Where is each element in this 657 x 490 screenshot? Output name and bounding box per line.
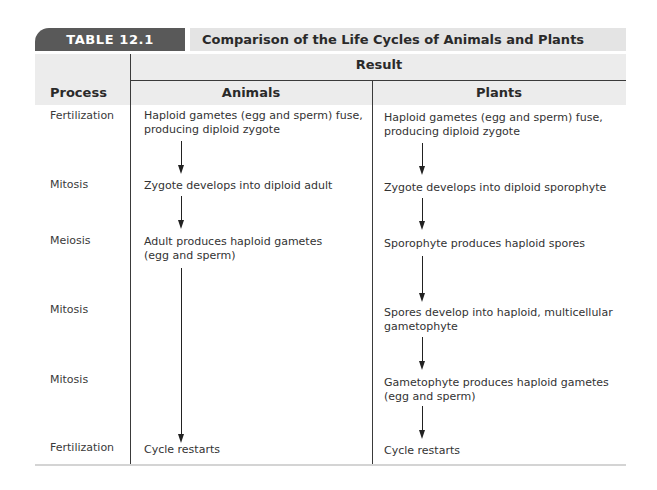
plants-cell: Zygote develops into diploid sporophyte [384,181,624,195]
animals-cell: Haploid gametes (egg and sperm) fuse, pr… [144,109,369,137]
table-title-bar: Comparison of the Life Cycles of Animals… [190,28,626,51]
plants-cell: Haploid gametes (egg and sperm) fuse, pr… [384,111,619,139]
down-arrow-icon [181,196,182,222]
down-arrow-icon [419,221,425,230]
down-arrow-icon [178,220,184,229]
table-number: TABLE 12.1 [66,32,154,47]
process-cell: Fertilization [50,109,114,122]
animals-cell: Adult produces haploid gametes (egg and … [144,235,324,263]
plants-cell: Cycle restarts [384,444,624,458]
down-arrow-icon [422,337,423,363]
result-group-header: Result [132,57,626,77]
column-divider-process [130,54,131,466]
down-arrow-icon [419,293,425,302]
down-arrow-icon [422,406,423,432]
down-arrow-icon [422,198,423,223]
process-cell: Mitosis [50,373,88,386]
table-number-tab: TABLE 12.1 [35,28,185,51]
process-cell: Meiosis [50,234,91,247]
down-arrow-icon [181,268,182,438]
column-header-plants: Plants [372,85,626,103]
animals-cell: Zygote develops into diploid adult [144,179,369,193]
plants-cell: Gametophyte produces haploid gametes (eg… [384,376,614,404]
down-arrow-icon [422,143,423,168]
process-cell: Mitosis [50,303,88,316]
column-header-animals: Animals [130,85,372,103]
process-cell: Mitosis [50,178,88,191]
down-arrow-icon [419,166,425,175]
result-header-rule [130,80,626,81]
column-header-process: Process [50,85,107,103]
down-arrow-icon [419,361,425,370]
down-arrow-icon [178,434,184,443]
down-arrow-icon [422,256,423,295]
column-divider-animals [372,80,373,466]
plants-cell: Spores develop into haploid, multicellul… [384,306,624,334]
table-bottom-rule [35,464,626,466]
animals-cell: Cycle restarts [144,443,369,457]
plants-cell: Sporophyte produces haploid spores [384,237,624,251]
down-arrow-icon [178,165,184,174]
down-arrow-icon [181,141,182,167]
process-cell: Fertilization [50,441,114,454]
table-title: Comparison of the Life Cycles of Animals… [202,32,584,47]
down-arrow-icon [419,430,425,439]
